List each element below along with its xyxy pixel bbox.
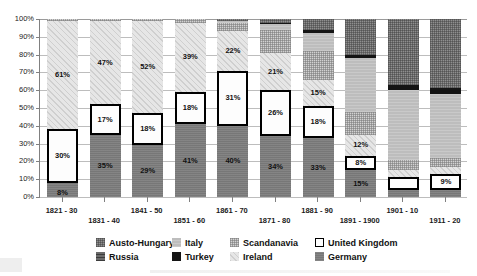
bar-segment-ireland[interactable]: 4% (388, 170, 419, 177)
legend-item[interactable]: Ireland (230, 252, 315, 262)
legend-label: Italy (185, 238, 203, 248)
x-axis-tick-label: 1911 - 20 (415, 216, 475, 225)
bar-segment-scand[interactable] (217, 23, 248, 32)
legend-item[interactable]: Scandanavia (230, 238, 315, 248)
x-axis-tick-label: 1861 - 70 (202, 206, 262, 215)
bar-segment-ireland[interactable]: 12% (345, 135, 376, 156)
bar-segment-austria[interactable] (303, 19, 334, 30)
segment-value-label: 33% (303, 164, 334, 172)
bar-segment-ireland[interactable]: 22% (217, 31, 248, 70)
bar-segment-germany[interactable]: 4% (388, 190, 419, 197)
bar-segment-austria[interactable] (345, 19, 376, 55)
bar-segment-uk[interactable]: 18% (132, 113, 163, 145)
bar-segment-scand[interactable] (303, 51, 334, 79)
bar-segment-uk[interactable]: 18% (303, 106, 334, 138)
bar-segment-germany[interactable]: 4% (430, 190, 461, 197)
bar-segment-scand[interactable] (175, 19, 206, 23)
bar-segment-scand[interactable] (345, 112, 376, 135)
bar-segment-uk[interactable]: 31% (217, 71, 248, 126)
x-axis-tick-mark (317, 197, 318, 202)
bar-segment-scand[interactable] (388, 160, 419, 171)
legend-swatch-ireland (230, 252, 239, 261)
bar-stack[interactable]: 34%26%21% (260, 19, 291, 197)
bar-segment-germany[interactable]: 41% (175, 124, 206, 197)
bar-segment-germany[interactable]: 33% (303, 138, 334, 197)
bar-segment-ireland[interactable]: 21% (260, 53, 291, 90)
x-axis-tick-label: 1881 - 90 (287, 206, 347, 215)
bar-stack[interactable]: 35%17%47% (90, 19, 121, 197)
plot-area: 8%30%61%35%17%47%29%18%52%41%18%39%40%31… (39, 19, 466, 197)
bar-stack[interactable]: 41%18%39% (175, 19, 206, 197)
legend-item[interactable]: Italy (172, 238, 230, 248)
legend-item[interactable]: Germany (315, 252, 419, 262)
bar-segment-turkey[interactable] (388, 85, 419, 90)
y-axis-tick-label: 90% (0, 33, 34, 41)
legend-swatch-uk (315, 238, 324, 247)
bar-segment-germany[interactable]: 8% (47, 183, 78, 197)
bar-segment-turkey[interactable] (303, 30, 334, 34)
bar-stack[interactable]: 4%9%4% (430, 19, 461, 197)
bar-segment-scand[interactable] (260, 30, 291, 53)
bar-segment-turkey[interactable] (345, 55, 376, 59)
bar-stack[interactable]: 8%30%61% (47, 19, 78, 197)
y-axis-tick-label: 100% (0, 15, 34, 23)
bar-segment-germany[interactable]: 15% (345, 170, 376, 197)
bar-segment-uk[interactable]: 18% (175, 92, 206, 124)
bar-segment-austria[interactable] (388, 19, 419, 85)
bar-segment-uk[interactable]: 9% (430, 174, 461, 190)
x-axis-tick-mark (189, 197, 190, 202)
x-axis-tick-mark (62, 197, 63, 202)
bar-segment-austria[interactable] (217, 19, 248, 21)
bar-segment-ireland[interactable]: 47% (90, 21, 121, 105)
bar-segment-ireland[interactable]: 15% (303, 80, 334, 107)
bar-segment-uk[interactable]: 8% (345, 156, 376, 170)
bar-segment-austria[interactable] (430, 19, 461, 88)
bar-segment-italy[interactable] (388, 90, 419, 159)
bar-segment-italy[interactable] (303, 33, 334, 51)
bar-stack[interactable]: 29%18%52% (132, 19, 163, 197)
bar-segment-italy[interactable] (345, 58, 376, 111)
x-axis-tick-mark (104, 197, 105, 202)
y-axis-tick-label: 30% (0, 140, 34, 148)
bar-segment-italy[interactable] (260, 24, 291, 29)
segment-value-label: 29% (132, 167, 163, 175)
bar-segment-scand[interactable] (90, 19, 121, 21)
bar-segment-ireland[interactable]: 61% (47, 21, 78, 130)
bar-segment-germany[interactable]: 40% (217, 126, 248, 197)
bar-segment-germany[interactable]: 34% (260, 136, 291, 197)
legend-item[interactable]: Austo-Hungary (96, 238, 172, 248)
bar-segment-turkey[interactable] (260, 23, 291, 25)
bar-segment-ireland[interactable]: 4% (430, 167, 461, 174)
bar-segment-austria[interactable] (260, 19, 291, 23)
legend-swatch-russia (96, 252, 105, 261)
legend-item[interactable]: Russia (96, 252, 172, 262)
x-axis-tick-label: 1871 - 80 (245, 216, 305, 225)
bar-segment-uk[interactable]: 30% (47, 129, 78, 182)
bar-segment-scand[interactable] (430, 158, 461, 167)
bar-stack[interactable]: 4%7%4% (388, 19, 419, 197)
bar-segment-italy[interactable] (430, 94, 461, 158)
bar-stack[interactable]: 40%31%22% (217, 19, 248, 197)
segment-value-label: 17% (92, 116, 119, 124)
segment-value-label: 8% (47, 189, 78, 197)
bar-segment-italy[interactable] (217, 21, 248, 23)
bar-segment-turkey[interactable] (430, 88, 461, 93)
x-axis-tick-mark (232, 197, 233, 202)
bar-segment-germany[interactable]: 29% (132, 145, 163, 197)
legend-item[interactable]: United Kingdom (315, 238, 419, 248)
x-axis-tick-label: 1901 - 10 (372, 206, 432, 215)
bar-segment-ireland[interactable]: 52% (132, 21, 163, 114)
bar-segment-ireland[interactable]: 39% (175, 23, 206, 92)
bar-segment-scand[interactable] (132, 19, 163, 21)
bar-stack[interactable]: 15%8%12% (345, 19, 376, 197)
legend-item[interactable]: Turkey (172, 252, 230, 262)
bar-segment-uk[interactable]: 17% (90, 104, 121, 134)
bar-stack[interactable]: 33%18%15% (303, 19, 334, 197)
bar-segment-scand[interactable] (47, 19, 78, 21)
bar-segment-germany[interactable]: 35% (90, 135, 121, 197)
segment-value-label: 61% (47, 71, 78, 79)
bar-segment-uk[interactable]: 26% (260, 90, 291, 136)
x-axis-tick-label: 1841 - 50 (117, 206, 177, 215)
legend-swatch-turkey (172, 252, 181, 261)
bar-segment-uk[interactable]: 7% (388, 177, 419, 189)
